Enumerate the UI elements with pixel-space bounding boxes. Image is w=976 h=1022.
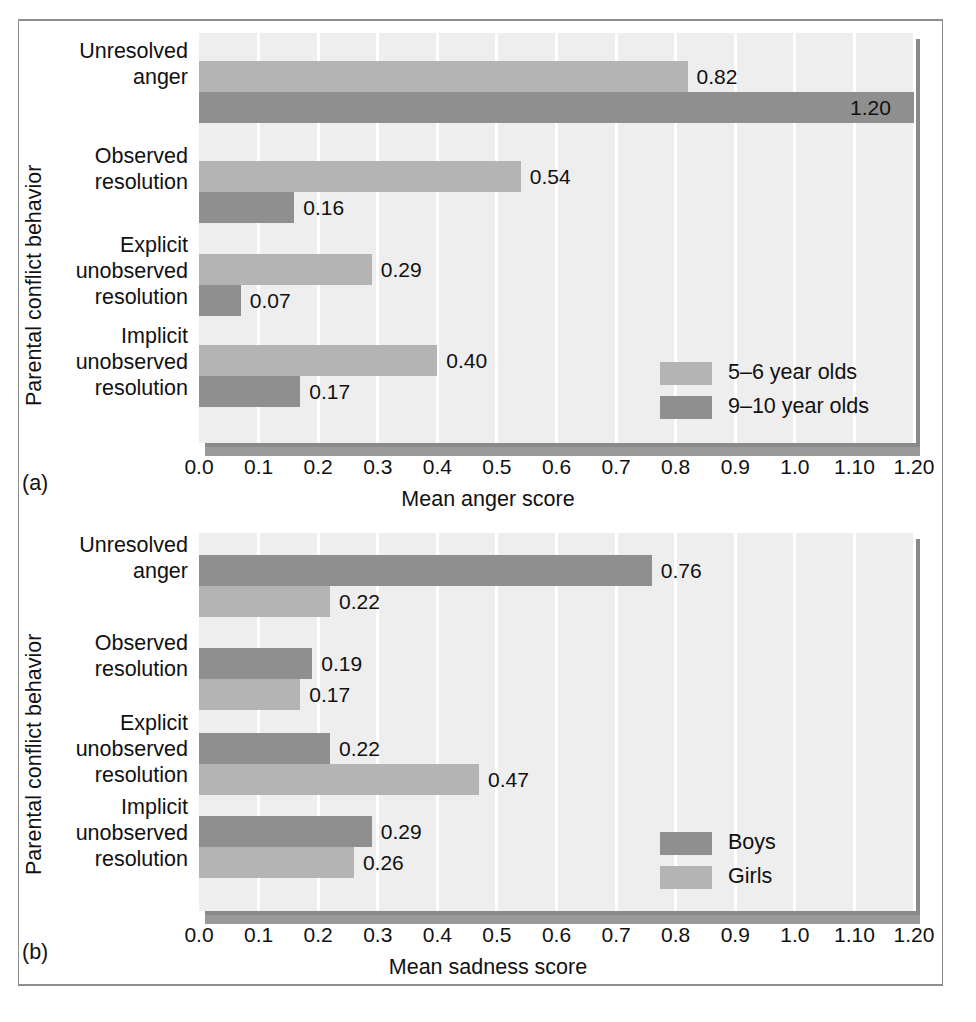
bar [199, 345, 437, 376]
x-axis-tick-label: 0.8 [661, 455, 690, 479]
panel-letter-a: (a) [22, 471, 48, 496]
bar-value-label: 0.22 [339, 591, 380, 612]
x-axis-tick-label: 1.20 [894, 455, 935, 479]
legend-label: Girls [728, 863, 772, 889]
x-axis-tick-label: 0.3 [363, 923, 392, 947]
gridline [615, 533, 618, 911]
gridline [436, 533, 439, 911]
bar-value-label: 0.19 [321, 653, 362, 674]
legend-label: 5–6 year olds [728, 359, 857, 385]
gridline [495, 533, 498, 911]
bar [199, 555, 652, 586]
category-label: Unresolved anger [79, 532, 188, 584]
bar [199, 847, 354, 878]
gridline [555, 533, 558, 911]
x-axis-tick-label: 1.0 [780, 923, 809, 947]
bar-value-label: 0.17 [309, 381, 350, 402]
legend-swatch [660, 832, 712, 855]
x-axis-bar-b [205, 915, 920, 924]
bar-value-label: 0.17 [309, 684, 350, 705]
x-axis-tick-label: 0.4 [423, 455, 452, 479]
x-axis-tick-label: 0.7 [601, 923, 630, 947]
x-axis-tick-label: 0.1 [244, 455, 273, 479]
category-label: Explicit unobserved resolution [76, 232, 188, 310]
x-axis-tick-label: 0.4 [423, 923, 452, 947]
bar [199, 285, 241, 316]
bar [199, 586, 330, 617]
x-axis-tick-label: 0.7 [601, 455, 630, 479]
x-axis-tick-label: 1.10 [834, 923, 875, 947]
x-axis-tick-label: 0.5 [482, 923, 511, 947]
legend-swatch [660, 362, 712, 385]
bar-value-label: 0.26 [363, 852, 404, 873]
bar [199, 61, 688, 92]
x-axis-tick-label: 0.5 [482, 455, 511, 479]
x-axis-tick-label: 0.0 [184, 455, 213, 479]
chart-panel-b: Parental conflict behavior Unresolved an… [0, 500, 976, 1022]
legend-label: 9–10 year olds [728, 393, 869, 419]
x-axis-tick-label: 0.2 [304, 923, 333, 947]
category-label: Implicit unobserved resolution [76, 794, 188, 872]
category-label: Unresolved anger [79, 38, 188, 90]
category-label: Observed resolution [95, 630, 188, 682]
y-axis-title-a: Parental conflict behavior [22, 165, 47, 406]
bar-value-label: 0.47 [488, 769, 529, 790]
x-axis-tick-label: 0.3 [363, 455, 392, 479]
bar [199, 192, 294, 223]
bar [199, 254, 372, 285]
bar-value-label: 0.29 [381, 259, 422, 280]
bar [199, 764, 479, 795]
top-rule [18, 19, 943, 21]
x-axis-bar-a [205, 447, 920, 456]
x-axis-tick-label: 0.6 [542, 455, 571, 479]
chart-panel-a: Parental conflict behavior Unresolved an… [0, 0, 976, 511]
x-axis-tick-label: 0.2 [304, 455, 333, 479]
legend-swatch [660, 396, 712, 419]
x-axis-tick-label: 0.9 [721, 923, 750, 947]
bar-value-label: 0.07 [250, 290, 291, 311]
x-axis-tick-label: 0.0 [184, 923, 213, 947]
y-axis-title-b: Parental conflict behavior [22, 634, 47, 875]
bar-value-label: 0.29 [381, 821, 422, 842]
x-axis-tick-label: 0.6 [542, 923, 571, 947]
legend-swatch [660, 866, 712, 889]
plot-area-b: 0.760.220.190.170.220.470.290.26BoysGirl… [199, 533, 914, 911]
category-label: Implicit unobserved resolution [76, 323, 188, 401]
category-label: Explicit unobserved resolution [76, 710, 188, 788]
legend-label: Boys [728, 829, 776, 855]
plot-area-a: 0.821.200.540.160.290.070.400.175–6 year… [199, 33, 914, 443]
bar [199, 679, 300, 710]
x-axis-tick-label: 0.9 [721, 455, 750, 479]
x-axis-tick-label: 0.1 [244, 923, 273, 947]
x-axis-tick-label: 1.0 [780, 455, 809, 479]
gridline [913, 533, 916, 911]
bottom-rule [18, 984, 943, 986]
category-label: Observed resolution [95, 143, 188, 195]
bar-value-label: 1.20 [850, 97, 891, 118]
bar [199, 648, 312, 679]
bar [199, 816, 372, 847]
bar-value-label: 0.40 [446, 350, 487, 371]
x-axis-tick-label: 1.20 [894, 923, 935, 947]
panel-letter-b: (b) [22, 940, 48, 965]
bar [199, 161, 521, 192]
bar-value-label: 0.54 [530, 166, 571, 187]
x-axis-tick-label: 0.8 [661, 923, 690, 947]
bar-value-label: 0.82 [697, 66, 738, 87]
gridline [793, 533, 796, 911]
bar [199, 92, 914, 123]
bar [199, 733, 330, 764]
gridline [853, 533, 856, 911]
x-axis-tick-label: 1.10 [834, 455, 875, 479]
bar-value-label: 0.16 [303, 197, 344, 218]
bar-value-label: 0.76 [661, 560, 702, 581]
bar-value-label: 0.22 [339, 738, 380, 759]
x-axis-title-b: Mean sadness score [0, 955, 976, 980]
bar [199, 376, 300, 407]
